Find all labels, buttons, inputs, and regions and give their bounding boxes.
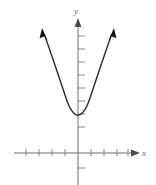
- parabola-right-arrowhead: [108, 28, 116, 41]
- y-axis-label: y: [73, 6, 78, 16]
- graph-figure: x y: [0, 0, 156, 185]
- y-axis-arrowhead: [75, 18, 82, 27]
- x-axis-arrowhead: [131, 150, 140, 157]
- parabola-left-arrowhead: [40, 28, 48, 41]
- coordinate-plane-svg: x y: [0, 0, 156, 185]
- y-axis-group: [75, 18, 85, 185]
- x-axis-group: [14, 149, 140, 157]
- x-axis-label: x: [141, 148, 146, 158]
